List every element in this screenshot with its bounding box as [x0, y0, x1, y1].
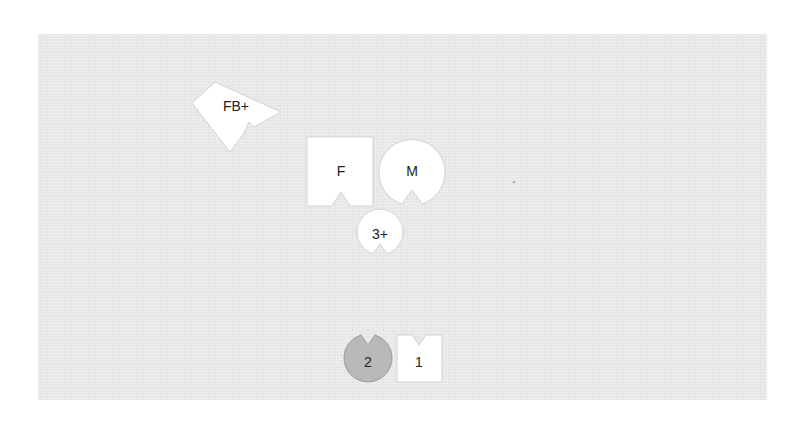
piece-fb-plus[interactable] — [192, 82, 281, 152]
piece-m[interactable] — [379, 140, 445, 204]
piece-three-plus[interactable] — [357, 209, 403, 254]
pieces-layer — [0, 0, 797, 428]
piece-two[interactable] — [344, 335, 392, 382]
piece-f[interactable] — [307, 137, 373, 206]
piece-one[interactable] — [397, 335, 442, 382]
